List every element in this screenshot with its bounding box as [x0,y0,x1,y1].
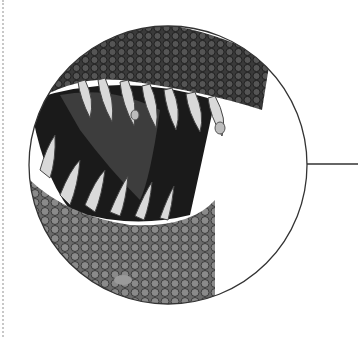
drool-drip [114,275,132,285]
dinosaur-head [20,20,270,330]
drool-drop [131,110,139,120]
dinosaur-callout-illustration [0,0,360,337]
drool-drop [215,122,225,134]
